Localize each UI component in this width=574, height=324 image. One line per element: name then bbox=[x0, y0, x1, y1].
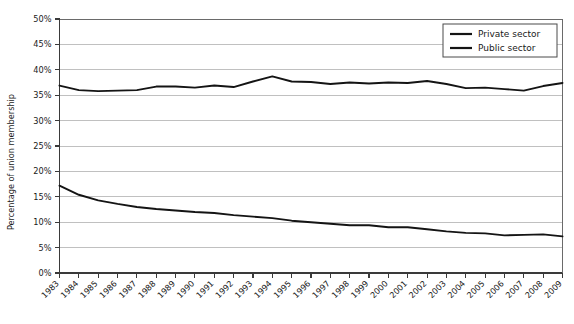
y-tick-label: 35% bbox=[33, 90, 51, 100]
legend-label-1: Private sector bbox=[478, 29, 540, 39]
chart-canvas: 0%5%10%15%20%25%30%35%40%45%50% 19831984… bbox=[0, 0, 574, 324]
y-tick-label: 45% bbox=[33, 39, 51, 49]
chart-legend: Private sectorPublic sector bbox=[443, 24, 557, 57]
y-tick-label: 50% bbox=[33, 14, 51, 24]
y-axis-title-group: Percentage of union membership bbox=[6, 94, 16, 230]
y-tick-label: 5% bbox=[39, 243, 52, 253]
y-axis-title: Percentage of union membership bbox=[6, 94, 16, 230]
y-tick-label: 40% bbox=[33, 65, 51, 75]
legend-label-2: Public sector bbox=[478, 43, 536, 53]
y-tick-label: 0% bbox=[39, 268, 52, 278]
union-membership-line-chart: 0%5%10%15%20%25%30%35%40%45%50% 19831984… bbox=[0, 0, 574, 324]
y-tick-label: 25% bbox=[33, 141, 51, 151]
y-tick-label: 30% bbox=[33, 116, 51, 126]
y-tick-label: 10% bbox=[33, 217, 51, 227]
y-tick-label: 20% bbox=[33, 166, 51, 176]
y-tick-label: 15% bbox=[33, 192, 51, 202]
